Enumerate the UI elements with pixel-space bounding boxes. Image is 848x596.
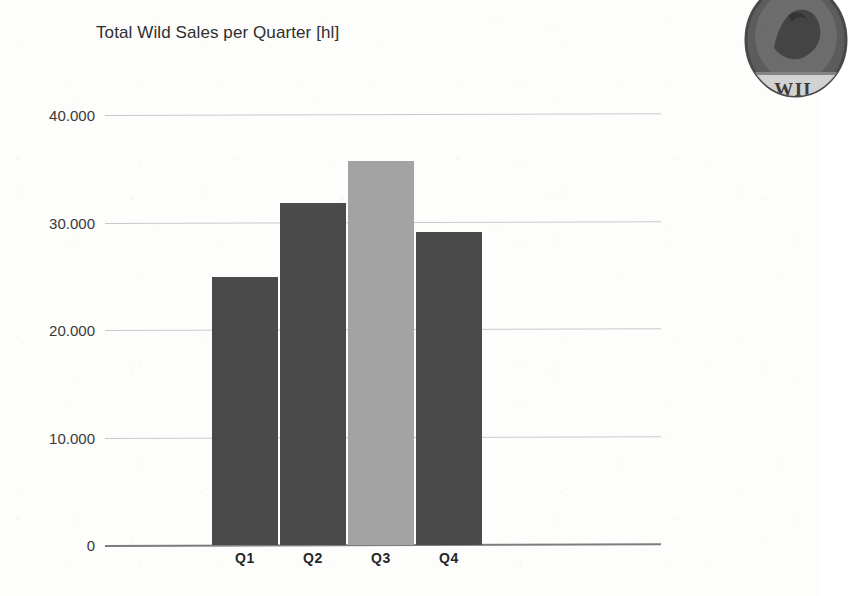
wild-brand-badge-icon: WIL bbox=[744, 0, 848, 110]
y-tick-label: 30.000 bbox=[5, 214, 95, 231]
bar-q2 bbox=[280, 203, 346, 545]
x-tick-label-q1: Q1 bbox=[212, 550, 278, 566]
chart-title: Total Wild Sales per Quarter [hl] bbox=[96, 23, 339, 43]
y-tick-label: 20.000 bbox=[5, 322, 95, 339]
bar-q3 bbox=[348, 161, 414, 545]
y-tick-label: 10.000 bbox=[5, 429, 95, 446]
y-tick-label: 40.000 bbox=[5, 107, 95, 124]
y-tick-label: 0 bbox=[5, 537, 95, 554]
x-tick-label-q3: Q3 bbox=[348, 550, 414, 566]
bar-q1 bbox=[212, 277, 278, 545]
plot-area bbox=[105, 115, 661, 545]
x-tick-label-q4: Q4 bbox=[416, 550, 482, 566]
x-tick-label-q2: Q2 bbox=[280, 550, 346, 566]
bar-q4 bbox=[416, 232, 482, 545]
x-axis-labels: Q1Q2Q3Q4 bbox=[105, 550, 661, 576]
bar-series bbox=[105, 115, 661, 545]
y-axis-labels: 010.00020.00030.00040.000 bbox=[0, 115, 95, 545]
